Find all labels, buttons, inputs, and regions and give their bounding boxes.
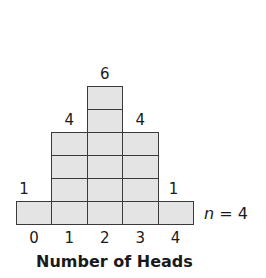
column-count-label: 4 (122, 111, 158, 129)
unit-square (51, 178, 87, 202)
unit-square (51, 155, 87, 179)
x-tick-label: 0 (16, 229, 52, 247)
unit-square (51, 201, 87, 225)
x-tick-label: 4 (158, 229, 194, 247)
n-value: = 4 (219, 204, 248, 223)
unit-square (122, 132, 158, 156)
x-tick-label: 3 (122, 229, 158, 247)
column-count-label: 1 (156, 180, 192, 198)
n-variable: n (204, 204, 214, 223)
unit-square (16, 201, 52, 225)
binomial-unit-square-chart: 1041624314 (0, 0, 266, 278)
unit-square (122, 178, 158, 202)
unit-square (122, 201, 158, 225)
column-count-label: 4 (51, 111, 87, 129)
x-tick-label: 2 (87, 229, 123, 247)
unit-square (87, 86, 123, 110)
unit-square (87, 201, 123, 225)
n-annotation: n = 4 (204, 204, 248, 223)
unit-square (87, 132, 123, 156)
unit-square (87, 109, 123, 133)
unit-square (51, 132, 87, 156)
unit-square (87, 178, 123, 202)
column-count-label: 1 (6, 180, 42, 198)
unit-square (122, 155, 158, 179)
x-tick-label: 1 (51, 229, 87, 247)
unit-square (158, 201, 194, 225)
column-count-label: 6 (87, 65, 123, 83)
x-axis-label: Number of Heads (36, 252, 193, 271)
unit-square (87, 155, 123, 179)
